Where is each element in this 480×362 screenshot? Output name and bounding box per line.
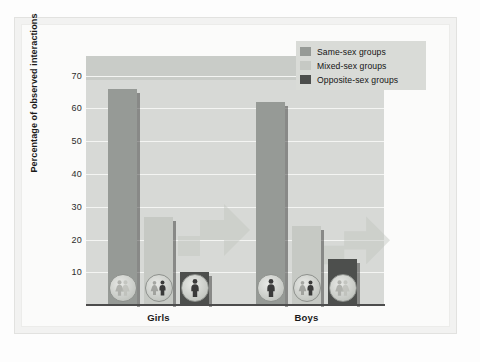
legend-label-same-sex: Same-sex groups	[317, 47, 386, 57]
bar-shadow	[137, 93, 140, 307]
legend-item-opposite-sex[interactable]: Opposite-sex groups	[300, 73, 421, 86]
bar-shadow	[357, 263, 360, 307]
x-axis-line	[86, 304, 385, 306]
bar-boys-mixed-sex-groups[interactable]	[292, 226, 324, 305]
legend-label-opposite-sex: Opposite-sex groups	[317, 75, 398, 85]
y-tick-label-30: 30	[56, 202, 82, 212]
y-tick-label-40: 40	[56, 169, 82, 179]
bar-girls-same-sex-groups[interactable]	[108, 89, 140, 305]
bar-girls-mixed-sex-groups[interactable]	[144, 217, 176, 306]
two-girls-icon	[109, 274, 137, 302]
legend-swatch-mixed-sex	[300, 61, 311, 70]
legend-label-mixed-sex: Mixed-sex groups	[317, 61, 386, 71]
x-axis-label-girls: Girls	[119, 312, 199, 323]
boy-icon	[257, 274, 285, 302]
two-girls-icon	[329, 274, 357, 302]
legend-item-mixed-sex[interactable]: Mixed-sex groups	[300, 59, 421, 72]
legend-swatch-same-sex	[300, 47, 311, 56]
girl-and-boy-icon	[293, 274, 321, 302]
plot-area	[86, 56, 384, 305]
arrow-watermark-left-icon	[178, 204, 250, 264]
y-tick-label-50: 50	[56, 136, 82, 146]
boy-icon	[181, 274, 209, 302]
bar-boys-same-sex-groups[interactable]	[256, 102, 288, 305]
bar-boys-opposite-sex-groups[interactable]	[328, 259, 360, 305]
bar-shadow	[285, 106, 288, 307]
y-tick-label-20: 20	[56, 235, 82, 245]
legend-item-same-sex[interactable]: Same-sex groups	[300, 45, 421, 58]
chart-figure: 10203040506070 Percentage of observed in…	[0, 0, 480, 362]
bar-girls-opposite-sex-groups[interactable]	[180, 272, 212, 305]
y-tick-label-60: 60	[56, 103, 82, 113]
bar-body	[108, 89, 137, 305]
y-tick-label-70: 70	[56, 71, 82, 81]
legend-swatch-opposite-sex	[300, 75, 311, 84]
girl-and-boy-icon	[145, 274, 173, 302]
bar-shadow	[321, 230, 324, 307]
bar-shadow	[173, 221, 176, 308]
bar-shadow	[209, 276, 212, 307]
x-axis-label-boys: Boys	[267, 312, 347, 323]
y-axis-title: Percentage of observed interactions	[29, 8, 39, 178]
y-tick-label-10: 10	[56, 267, 82, 277]
legend: Same-sex groups Mixed-sex groups Opposit…	[296, 41, 426, 90]
y-axis-ticks: 10203040506070	[52, 56, 82, 305]
